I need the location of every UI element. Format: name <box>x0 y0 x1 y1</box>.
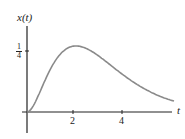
y-axis-label: x(t) <box>17 11 32 23</box>
y-tick-numerator: 1 <box>15 43 23 51</box>
y-tick-denominator: 4 <box>15 52 23 60</box>
x-tick-label-4: 4 <box>119 115 124 126</box>
curve-x-of-t <box>27 46 174 112</box>
y-tick-label-quarter: 1 4 <box>15 43 23 60</box>
x-tick-label-2: 2 <box>70 115 75 126</box>
x-axis-label: t <box>177 104 180 116</box>
